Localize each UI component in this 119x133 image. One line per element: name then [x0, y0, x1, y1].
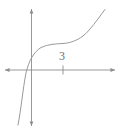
x-tick-label-3: 3 — [59, 50, 65, 62]
x-axis-left-arrow-icon — [5, 68, 10, 72]
y-axis-bottom-arrow-icon — [30, 122, 34, 127]
coordinate-plot — [0, 0, 119, 133]
x-axis-right-arrow-icon — [111, 68, 116, 72]
y-axis-top-arrow-icon — [30, 9, 34, 14]
graph-figure: 3 — [0, 0, 119, 133]
